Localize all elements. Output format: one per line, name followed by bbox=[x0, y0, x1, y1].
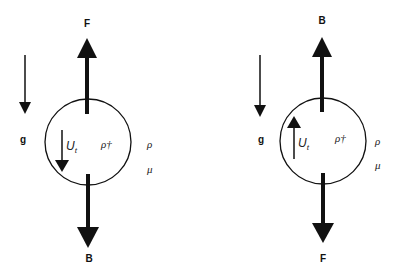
right-fluid-viscosity-label: μ bbox=[374, 159, 381, 171]
left-panel: F g Ut ρ† ρ μ B bbox=[19, 18, 153, 264]
left-velocity-label: Ut bbox=[66, 139, 78, 155]
left-gravity-label: g bbox=[20, 134, 26, 145]
left-fluid-viscosity-label: μ bbox=[146, 163, 153, 175]
right-bottom-force-label: F bbox=[320, 253, 326, 264]
right-particle-density-label: ρ† bbox=[334, 132, 346, 144]
left-top-force-label: F bbox=[84, 18, 90, 29]
left-particle-density-label: ρ† bbox=[100, 138, 112, 150]
left-bottom-force-label: B bbox=[85, 253, 92, 264]
right-top-force-arrow-icon bbox=[312, 37, 332, 112]
free-body-diagram: F g Ut ρ† ρ μ B B bbox=[0, 0, 396, 276]
left-gravity-arrow-icon bbox=[19, 55, 31, 114]
right-velocity-label: Ut bbox=[298, 136, 310, 152]
left-fluid-density-label: ρ bbox=[146, 138, 152, 150]
right-gravity-label: g bbox=[258, 134, 264, 145]
right-gravity-arrow-icon bbox=[254, 55, 266, 117]
right-panel: B g Ut ρ† ρ μ F bbox=[254, 15, 381, 264]
left-bottom-force-arrow-icon bbox=[77, 174, 99, 248]
right-top-force-label: B bbox=[318, 15, 325, 26]
left-top-force-arrow-icon bbox=[77, 38, 97, 114]
right-fluid-density-label: ρ bbox=[374, 135, 380, 147]
